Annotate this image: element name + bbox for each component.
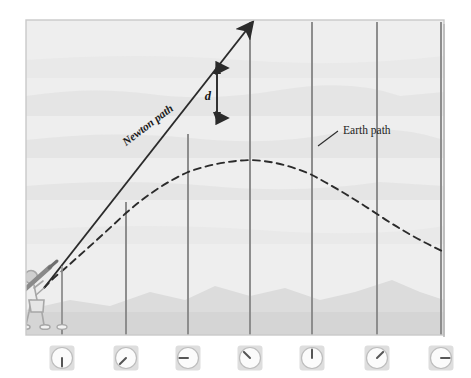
observer-foot-right — [40, 325, 50, 330]
observer-skirt — [29, 300, 44, 312]
clock-6: 1:30 — [365, 346, 390, 371]
figure-canvas: Newton path Earth path d 6 o'clock7:309 … — [0, 0, 471, 378]
clock-7: 3 o'clock — [429, 346, 454, 371]
clock-1: 6 o'clock — [50, 346, 75, 371]
ground — [26, 312, 444, 335]
newton-earth-path-figure: Newton path Earth path d 6 o'clock7:309 … — [0, 0, 471, 378]
distance-label: d — [205, 89, 212, 103]
clock-4: 10:30 — [238, 346, 263, 371]
clock-2: 7:30 — [114, 346, 139, 371]
earth-path-label: Earth path — [343, 124, 391, 137]
clock-3: 9 o'clock — [176, 346, 201, 371]
clock-5: 12 o'clock — [300, 346, 325, 371]
scene-panel — [20, 20, 444, 337]
